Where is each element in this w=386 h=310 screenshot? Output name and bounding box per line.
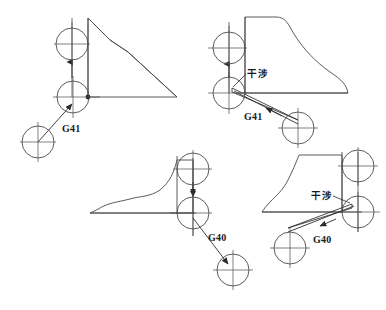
label-g40-bottom-right: G40 (313, 234, 331, 245)
workpiece-profile-bottom-right (262, 155, 342, 212)
workpiece-edge-top-left (88, 18, 177, 97)
panel-bottom-right (262, 147, 380, 268)
travel-arrow-bottom-right (320, 219, 336, 226)
label-interference-bottom-right: 干涉 (311, 188, 332, 202)
label-g40-bottom-left: G40 (208, 232, 226, 243)
tool-circle-mid-bottom-left (170, 193, 212, 236)
tool-circle-end-top-left (54, 22, 90, 66)
diagram-root: G41 G41 干涉 G40 G40 干涉 (0, 0, 386, 310)
workpiece-profile-bottom-left (90, 160, 193, 213)
tool-circle-end-bottom-left (213, 250, 253, 290)
label-interference-top-right: 干涉 (247, 66, 268, 80)
tool-circle-start-bottom-left (173, 150, 212, 189)
tool-circle-start-bottom-right (338, 147, 378, 186)
tool-circle-end-top-right (208, 26, 247, 70)
workpiece-profile-top-right (245, 17, 348, 93)
tool-circle-end-bottom-right (270, 228, 310, 268)
panel-top-left (20, 18, 177, 162)
tool-circle-mid-top-left (53, 76, 100, 118)
label-g41-top-right: G41 (244, 111, 262, 122)
diagram-canvas (0, 0, 386, 310)
tool-circle-mid-bottom-right (338, 192, 380, 232)
label-g41-top-left: G41 (62, 123, 80, 134)
panel-bottom-left (90, 150, 253, 290)
panel-top-right (208, 17, 348, 148)
